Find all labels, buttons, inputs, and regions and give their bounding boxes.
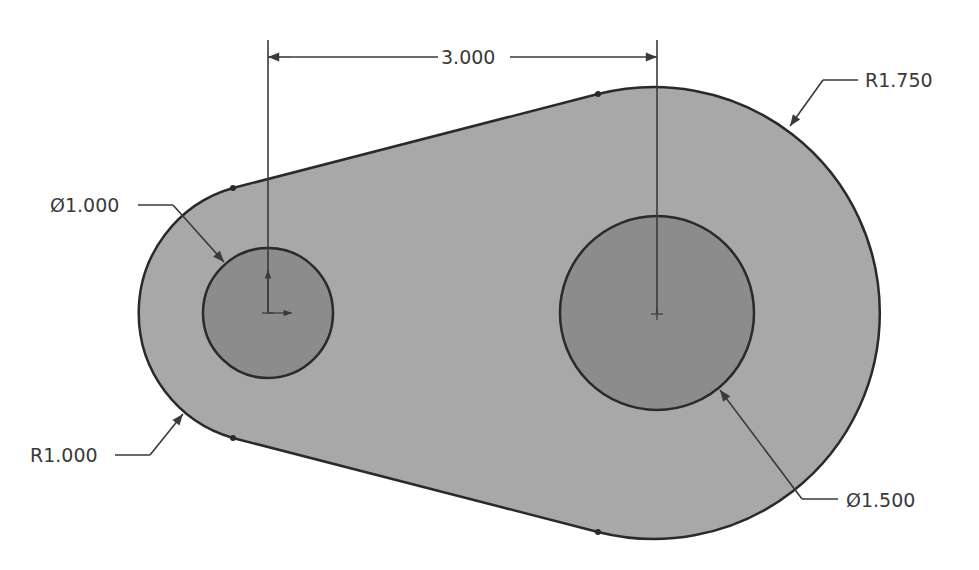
dimension-label-large-hole: Ø1.500 [846, 489, 915, 511]
tangent-point [230, 435, 236, 441]
sketch-canvas: 3.000 R1.750 Ø1.000 R1.000 Ø1.500 [0, 0, 979, 570]
leader-large-radius[interactable] [790, 80, 858, 126]
dimension-label-large-radius: R1.750 [865, 69, 933, 91]
tangent-point [595, 529, 601, 535]
dimension-label-small-radius: R1.000 [30, 444, 98, 466]
dimension-label-center-distance: 3.000 [441, 46, 495, 68]
dimension-label-small-hole: Ø1.000 [50, 194, 119, 216]
leader-small-radius[interactable] [115, 414, 183, 455]
tangent-point [230, 185, 236, 191]
tangent-point [595, 91, 601, 97]
